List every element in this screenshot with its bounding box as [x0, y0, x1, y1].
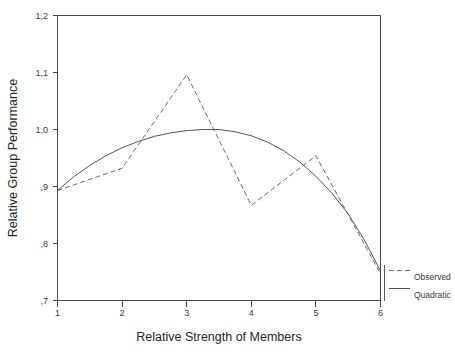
series-line-observed [58, 75, 381, 274]
x-tick-label: 4 [249, 308, 254, 318]
x-tick-label: 3 [184, 308, 189, 318]
legend: Observed Quadratic [385, 265, 452, 301]
y-tick-label: 1,1 [35, 68, 48, 78]
y-axis-tick-labels: 1,2 1,1 1,0 ,9 ,8 ,7 [35, 11, 48, 306]
y-tick-label: ,9 [40, 182, 48, 192]
chart-container: 1,2 1,1 1,0 ,9 ,8 ,7 1 2 3 4 5 6 Relativ… [0, 0, 455, 352]
y-axis-ticks [53, 16, 58, 301]
legend-label-observed: Observed [414, 272, 451, 282]
y-tick-label: ,8 [40, 239, 48, 249]
x-axis-tick-labels: 1 2 3 4 5 6 [55, 308, 383, 318]
y-axis-title: Relative Group Performance [6, 79, 20, 237]
x-tick-label: 2 [120, 308, 125, 318]
y-tick-label: 1,0 [35, 125, 48, 135]
x-tick-label: 6 [378, 308, 383, 318]
x-axis-ticks [58, 301, 381, 307]
relative-group-performance-chart: 1,2 1,1 1,0 ,9 ,8 ,7 1 2 3 4 5 6 Relativ… [0, 0, 455, 352]
legend-label-quadratic: Quadratic [414, 290, 452, 300]
series-line-quadratic [58, 130, 381, 271]
y-tick-label: ,7 [40, 296, 48, 306]
plot-frame [58, 16, 381, 301]
x-tick-label: 1 [55, 308, 60, 318]
x-axis-title: Relative Strength of Members [136, 330, 301, 344]
x-tick-label: 5 [313, 308, 318, 318]
y-tick-label: 1,2 [35, 11, 48, 21]
